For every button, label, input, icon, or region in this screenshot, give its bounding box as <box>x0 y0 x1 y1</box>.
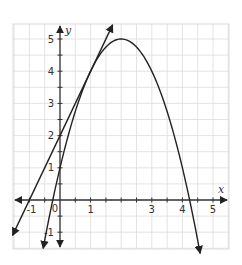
x-tick-label: -1 <box>26 204 36 215</box>
y-tick-label: 1 <box>48 162 54 173</box>
y-tick-label: 4 <box>48 66 54 77</box>
x-tick-label: 1 <box>87 204 93 215</box>
grid <box>13 24 229 249</box>
y-tick-label: 3 <box>48 98 54 109</box>
y-tick-label: 2 <box>48 130 54 141</box>
x-axis-name: x <box>218 183 225 196</box>
y-axis-name: y <box>64 24 72 37</box>
origin-label: 0 <box>52 203 58 214</box>
x-tick-label: 5 <box>210 204 216 215</box>
graph: -113450-112345xy <box>0 0 242 265</box>
x-tick-label: 3 <box>149 204 155 215</box>
y-tick-label: 5 <box>48 34 54 45</box>
x-tick-label: 4 <box>179 204 185 215</box>
